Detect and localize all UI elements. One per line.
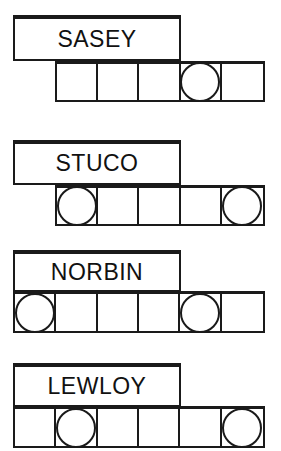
cell[interactable] (98, 64, 139, 100)
group-norbin-cell-row (13, 291, 265, 333)
cell[interactable] (56, 409, 97, 446)
group-stuco-label-box[interactable]: STUCO (13, 140, 181, 185)
cell[interactable] (139, 188, 180, 224)
cell[interactable] (139, 409, 180, 446)
group-lewloy-cell-row (13, 406, 265, 448)
group-sasey-label-text: SASEY (57, 28, 136, 51)
cell[interactable] (139, 294, 180, 331)
circle-marker-icon (15, 293, 55, 333)
circle-marker-icon (222, 186, 262, 226)
group-norbin-label-text: NORBIN (51, 261, 143, 284)
group-lewloy-label-box[interactable]: LEWLOY (13, 363, 181, 407)
group-stuco-cell-row (55, 185, 265, 226)
group-norbin-label-box[interactable]: NORBIN (13, 250, 181, 292)
cell[interactable] (56, 294, 97, 331)
cell[interactable] (15, 294, 56, 331)
cell[interactable] (222, 64, 263, 100)
circle-marker-icon (222, 408, 262, 448)
circle-marker-icon (180, 293, 220, 333)
cell[interactable] (98, 409, 139, 446)
circle-marker-icon (180, 62, 220, 102)
cell[interactable] (139, 64, 180, 100)
cell[interactable] (222, 188, 263, 224)
cell[interactable] (57, 188, 98, 224)
circle-marker-icon (56, 408, 96, 448)
name-grid-puzzle: SASEYSTUCONORBINLEWLOY (0, 0, 281, 451)
cell[interactable] (222, 294, 263, 331)
cell[interactable] (181, 188, 222, 224)
group-sasey-label-box[interactable]: SASEY (13, 15, 181, 61)
cell[interactable] (98, 188, 139, 224)
cell[interactable] (180, 294, 221, 331)
group-stuco-label-text: STUCO (56, 152, 139, 175)
cell[interactable] (181, 64, 222, 100)
group-lewloy-label-text: LEWLOY (48, 375, 147, 398)
cell[interactable] (15, 409, 56, 446)
group-sasey-cell-row (55, 61, 265, 102)
cell[interactable] (222, 409, 263, 446)
cell[interactable] (98, 294, 139, 331)
circle-marker-icon (57, 186, 97, 226)
cell[interactable] (180, 409, 221, 446)
cell[interactable] (57, 64, 98, 100)
